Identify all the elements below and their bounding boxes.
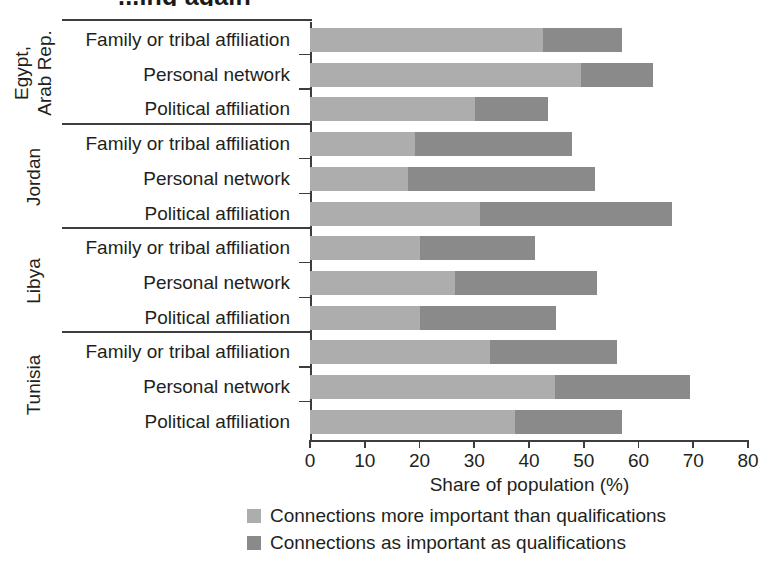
bar-segment-as-important: [581, 63, 653, 87]
stacked-bar: [310, 167, 595, 191]
x-axis-tick-label: 30: [464, 450, 485, 472]
x-axis-tick: [419, 440, 421, 448]
chart-legend: Connections more important than qualific…: [247, 502, 666, 556]
x-axis-tick-label: 70: [683, 450, 704, 472]
stacked-bar: [310, 375, 690, 399]
legend-item-label: Connections as important as qualificatio…: [270, 532, 626, 554]
x-axis-tick: [692, 440, 694, 448]
bar-segment-as-important: [420, 236, 535, 260]
bar-segment-more-important: [310, 236, 420, 260]
y-axis-minor-tick: [299, 158, 310, 160]
x-axis-tick-label: 20: [409, 450, 430, 472]
x-axis-tick: [747, 440, 749, 448]
stacked-bar: [310, 202, 672, 226]
x-axis-tick: [309, 440, 311, 448]
legend-swatch-icon: [247, 536, 261, 550]
bar-segment-more-important: [310, 410, 515, 434]
legend-item-label: Connections more important than qualific…: [270, 505, 666, 527]
x-axis-tick: [473, 440, 475, 448]
legend-swatch-icon: [247, 509, 261, 523]
y-axis-minor-tick: [299, 401, 310, 403]
legend-item: Connections more important than qualific…: [247, 502, 666, 529]
bar-segment-as-important: [420, 306, 556, 330]
bar-segment-more-important: [310, 167, 408, 191]
bar-segment-more-important: [310, 132, 415, 156]
stacked-bar: [310, 97, 548, 121]
bar-segment-as-important: [455, 271, 597, 295]
country-group-label: Libya: [23, 229, 45, 333]
y-axis-minor-tick: [299, 366, 310, 368]
bar-segment-as-important: [480, 202, 672, 226]
x-axis-tick-label: 60: [628, 450, 649, 472]
x-axis-tick: [364, 440, 366, 448]
x-axis-tick: [583, 440, 585, 448]
group-separator: [62, 227, 312, 229]
y-axis-minor-tick: [299, 88, 310, 90]
stacked-bar: [310, 306, 556, 330]
figure-title-cropped: ...ing again: [0, 0, 779, 6]
x-axis-tick: [528, 440, 530, 448]
bar-segment-more-important: [310, 63, 581, 87]
x-axis-tick: [638, 440, 640, 448]
x-axis-tick-label: 40: [518, 450, 539, 472]
x-axis-tick-label: 80: [737, 450, 758, 472]
country-group-label: Arab Rep.: [35, 21, 57, 125]
bar-segment-as-important: [415, 132, 572, 156]
bar-segment-as-important: [408, 167, 595, 191]
bar-segment-more-important: [310, 97, 475, 121]
stacked-bar: [310, 28, 622, 52]
chart-figure: ...ing again 01020304050607080 Share of …: [0, 0, 779, 575]
stacked-bar: [310, 63, 653, 87]
bar-segment-more-important: [310, 202, 480, 226]
x-axis-tick-label: 50: [573, 450, 594, 472]
stacked-bar: [310, 236, 535, 260]
bar-segment-as-important: [475, 97, 548, 121]
bar-segment-more-important: [310, 306, 420, 330]
y-axis-minor-tick: [299, 262, 310, 264]
bar-segment-as-important: [515, 410, 622, 434]
stacked-bar: [310, 340, 617, 364]
x-axis-tick-label: 10: [354, 450, 375, 472]
y-axis-minor-tick: [299, 54, 310, 56]
bar-segment-as-important: [555, 375, 690, 399]
stacked-bar: [310, 132, 572, 156]
y-axis-minor-tick: [299, 193, 310, 195]
stacked-bar: [310, 271, 597, 295]
group-separator: [62, 19, 312, 21]
country-group-label: Egypt,: [12, 21, 34, 125]
figure-title-text: ...ing again: [118, 0, 251, 6]
bar-segment-as-important: [543, 28, 622, 52]
bar-segment-as-important: [490, 340, 617, 364]
legend-item: Connections as important as qualificatio…: [247, 529, 666, 556]
bar-segment-more-important: [310, 340, 490, 364]
bar-segment-more-important: [310, 271, 455, 295]
y-axis-minor-tick: [299, 297, 310, 299]
group-separator: [62, 331, 312, 333]
country-group-label: Tunisia: [23, 333, 45, 437]
country-group-label: Jordan: [23, 125, 45, 229]
stacked-bar: [310, 410, 622, 434]
bar-segment-more-important: [310, 28, 543, 52]
x-axis-title: Share of population (%): [310, 474, 749, 496]
bar-segment-more-important: [310, 375, 555, 399]
x-axis-tick-label: 0: [305, 450, 316, 472]
group-separator: [62, 123, 312, 125]
